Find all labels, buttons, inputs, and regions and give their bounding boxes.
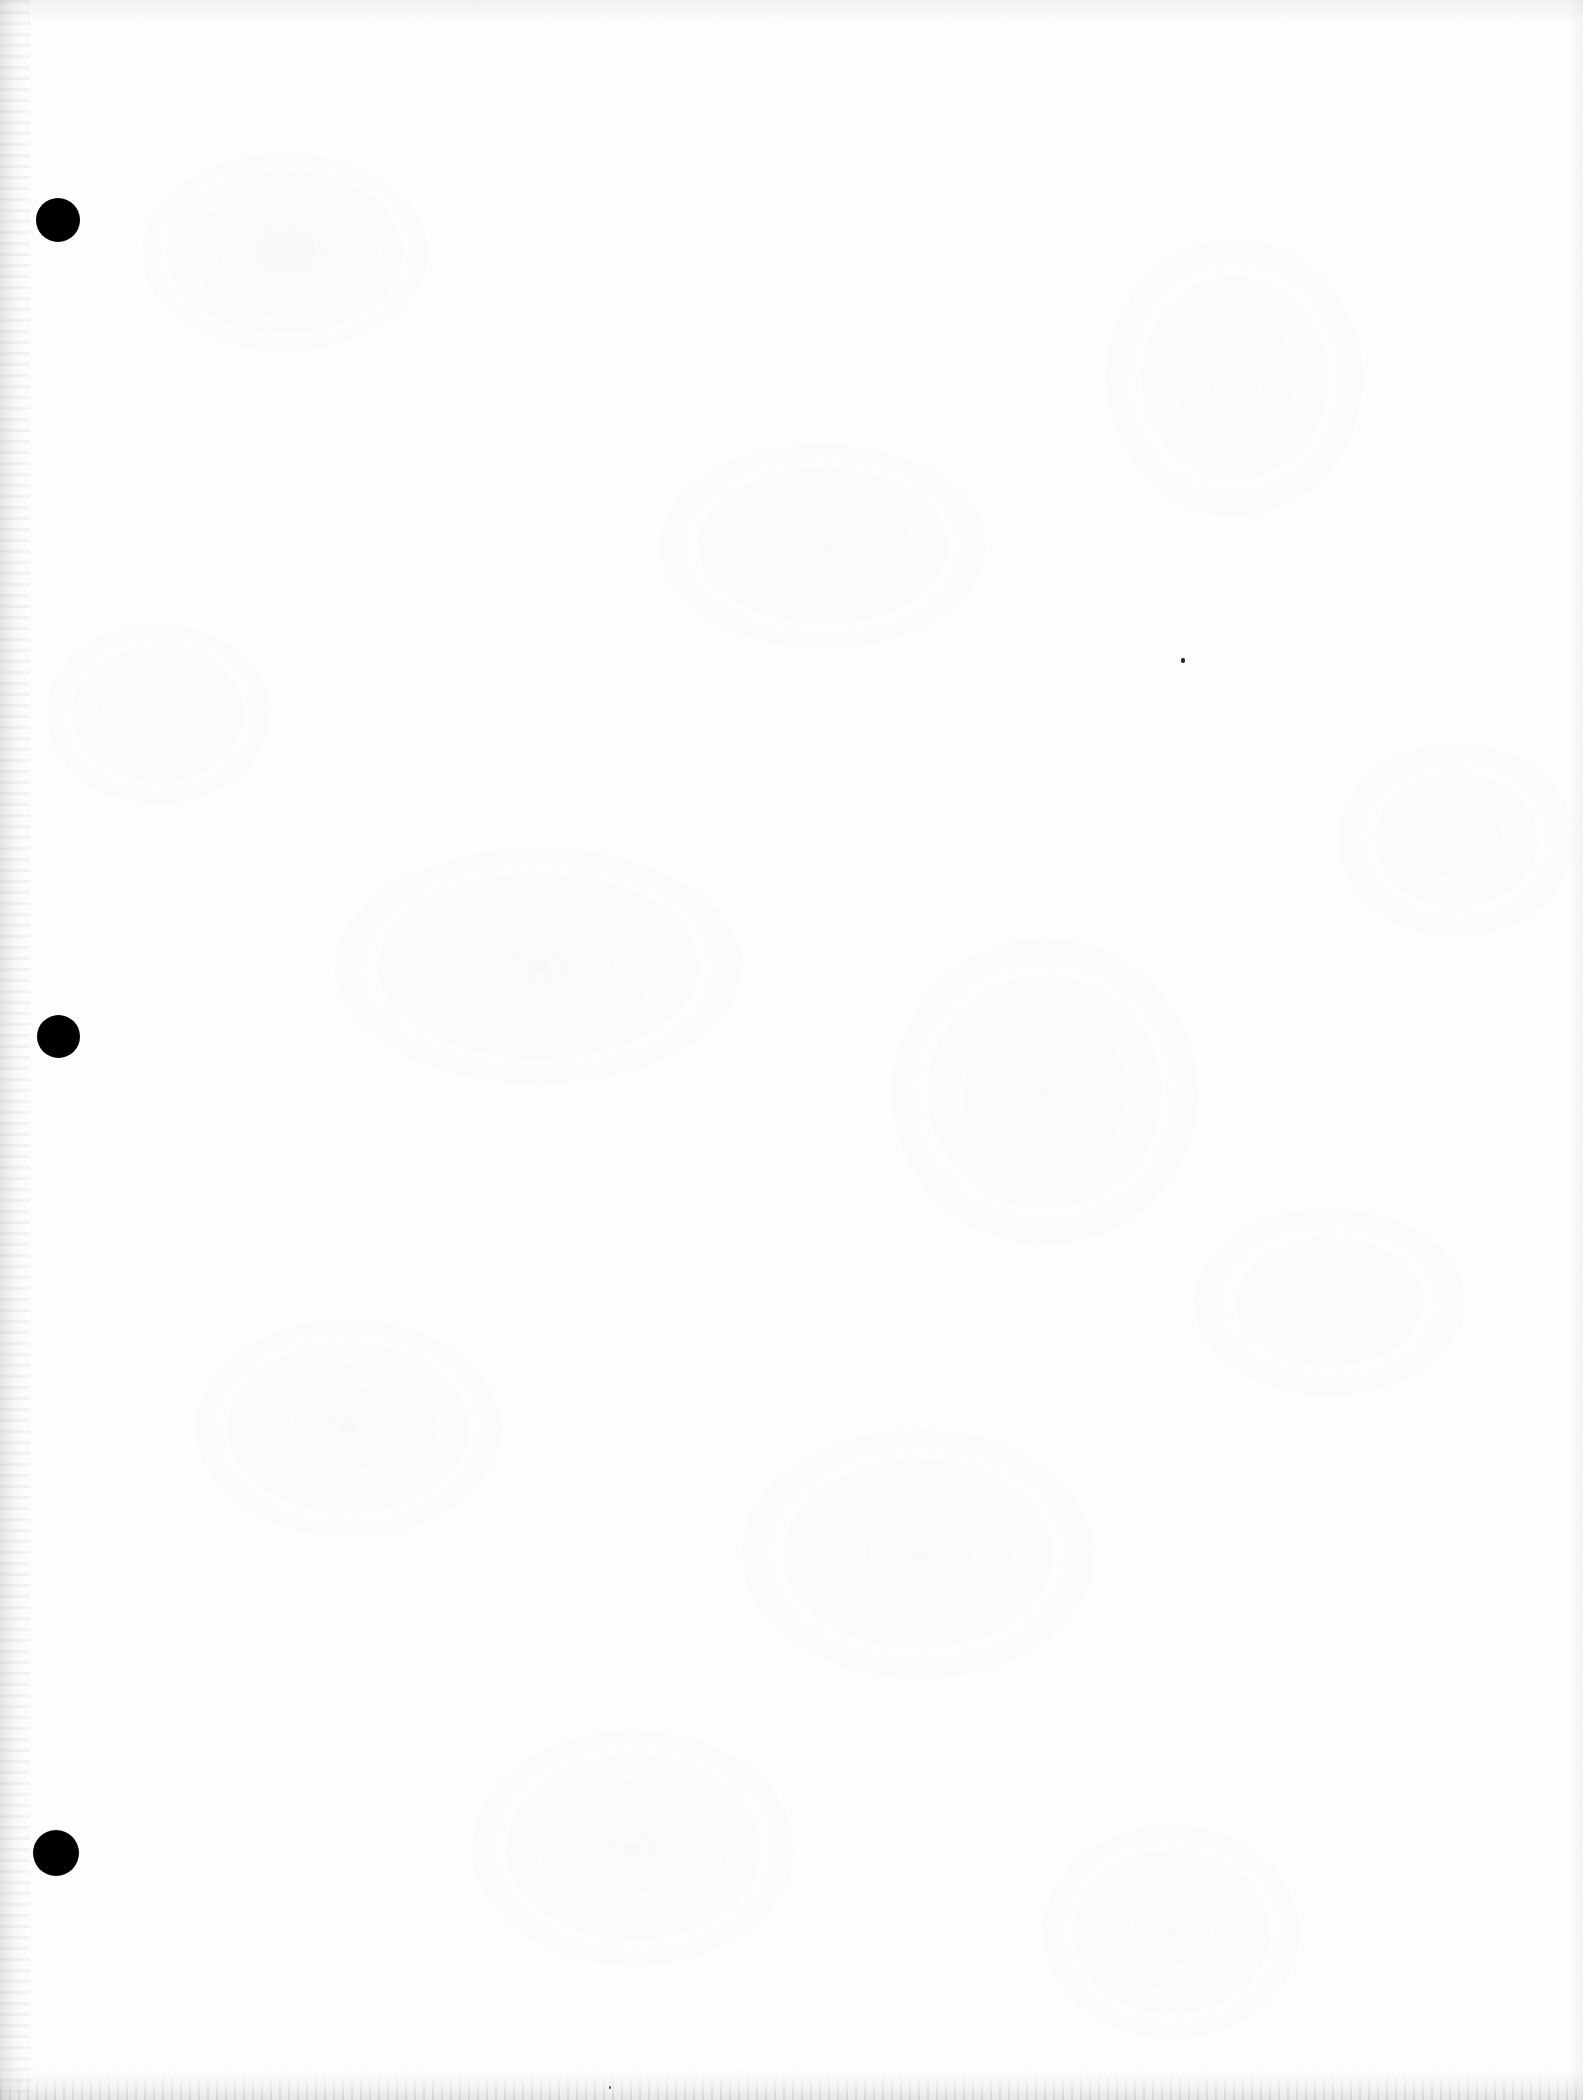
- paper-grain-layer: [0, 0, 1583, 2100]
- scan-speck-center-speck: [1181, 658, 1185, 663]
- bottom-edge-scan-streaks: [0, 2076, 1583, 2100]
- hole-punch-mark-top-hole: [36, 198, 80, 242]
- scanned-page: [0, 0, 1583, 2100]
- left-edge-streaks: [0, 0, 30, 2100]
- hole-punch-mark-bottom-hole: [33, 1830, 79, 1876]
- top-edge-shadow: [0, 0, 1583, 22]
- hole-punch-mark-middle-hole: [37, 1015, 80, 1058]
- scan-speck-bottom-edge-speck: [609, 2086, 611, 2089]
- right-edge-shadow: [1569, 0, 1583, 2100]
